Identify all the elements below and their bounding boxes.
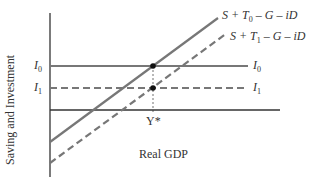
left-label-i0: I0 (34, 59, 42, 76)
right-label-i1: I1 (253, 81, 261, 98)
equilibrium-point-i1 (150, 85, 156, 91)
saving-investment-diagram: Saving and Investment I0 I1 I0 I1 S + T0… (0, 0, 311, 179)
left-label-i1: I1 (34, 81, 42, 98)
y-axis-label: Saving and Investment (3, 50, 18, 170)
equilibrium-label: Y* (146, 115, 161, 127)
x-axis-label: Real GDP (139, 148, 188, 160)
saving-line-t0 (50, 18, 218, 142)
equilibrium-point-i0 (150, 63, 156, 69)
label-s-t0: S + T0 – G – iD (222, 9, 297, 26)
label-s-t1: S + T1 – G – iD (230, 30, 305, 47)
right-label-i0: I0 (253, 59, 261, 76)
saving-line-t1 (50, 33, 227, 163)
